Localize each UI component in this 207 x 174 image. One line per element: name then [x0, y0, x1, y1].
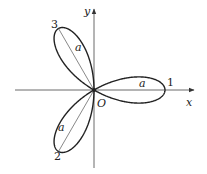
- diagram-canvas: x y O 1 2 3 a a a: [0, 0, 207, 174]
- leaf-2-length-label: a: [58, 121, 65, 134]
- leaf-1-number: 1: [167, 76, 174, 89]
- y-axis-label: y: [83, 5, 91, 18]
- origin-point: [92, 88, 96, 92]
- origin-label: O: [97, 97, 106, 110]
- leaf-3-number: 3: [51, 18, 58, 31]
- leaf-3-length-label: a: [75, 41, 82, 54]
- leaf-2-number: 2: [54, 150, 61, 163]
- x-axis-label: x: [186, 96, 193, 109]
- polar-rose-diagram: x y O 1 2 3 a a a: [0, 0, 207, 174]
- leaf-1-length-label: a: [139, 77, 146, 90]
